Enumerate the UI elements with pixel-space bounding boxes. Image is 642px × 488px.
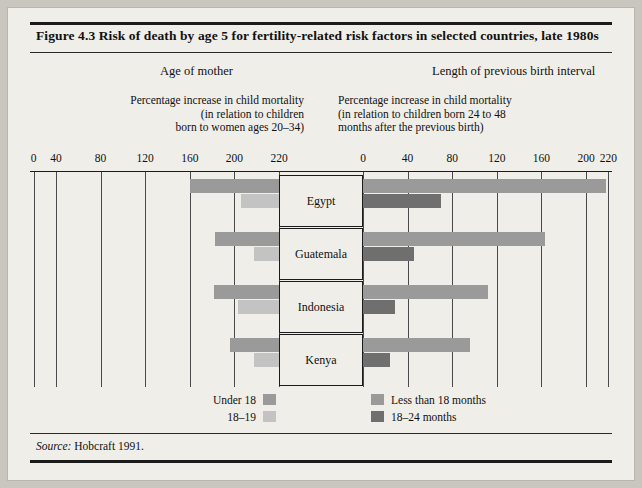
left-tick-220: 0 bbox=[31, 152, 37, 164]
left-panel-heading: Age of mother bbox=[160, 64, 233, 79]
right-caption-line-3: months after the previous birth) bbox=[338, 121, 588, 135]
bar-left-indonesia-1 bbox=[238, 300, 279, 314]
top-rule bbox=[30, 22, 612, 25]
figure-title: Figure 4.3 Risk of death by age 5 for fe… bbox=[36, 28, 599, 44]
left-panel-caption: Percentage increase in child mortality (… bbox=[64, 94, 304, 135]
country-label-egypt: Egypt bbox=[279, 175, 363, 227]
chart-legend: Under 1818–19Less than 18 months18–24 mo… bbox=[8, 394, 634, 428]
right-tick-160: 160 bbox=[533, 152, 550, 164]
legend-right-0: Less than 18 months bbox=[371, 394, 486, 406]
right-tick-220: 220 bbox=[600, 152, 617, 164]
left-caption-line-2: (in relation to children bbox=[64, 108, 304, 122]
source-rule bbox=[30, 433, 612, 434]
bottom-rule bbox=[30, 460, 612, 463]
bar-right-indonesia-0 bbox=[363, 285, 488, 299]
page-margin-top bbox=[0, 0, 642, 8]
chart-row-kenya: Kenya bbox=[8, 334, 634, 387]
source-text: Hobcraft 1991. bbox=[74, 440, 144, 452]
country-label-guatemala: Guatemala bbox=[279, 228, 363, 280]
chart-row-indonesia: Indonesia bbox=[8, 281, 634, 334]
bar-left-guatemala-0 bbox=[215, 232, 279, 246]
left-tick-0: 220 bbox=[270, 152, 287, 164]
bar-left-kenya-1 bbox=[254, 353, 279, 367]
bar-right-guatemala-0 bbox=[363, 232, 545, 246]
source-note: Source: Hobcraft 1991. bbox=[36, 440, 144, 452]
legend-right-1-swatch bbox=[371, 411, 384, 422]
bar-right-indonesia-1 bbox=[363, 300, 395, 314]
bar-right-kenya-1 bbox=[363, 353, 390, 367]
chart-row-egypt: Egypt bbox=[8, 175, 634, 228]
country-label-kenya: Kenya bbox=[279, 334, 363, 386]
left-tick-80: 160 bbox=[181, 152, 198, 164]
right-tick-200: 200 bbox=[577, 152, 594, 164]
title-rule bbox=[30, 52, 612, 53]
bar-left-indonesia-0 bbox=[214, 285, 279, 299]
left-tick-120: 120 bbox=[137, 152, 154, 164]
legend-left-0-label: Under 18 bbox=[176, 394, 256, 406]
legend-left-1: 18–19 bbox=[176, 411, 276, 423]
bar-right-egypt-1 bbox=[363, 194, 441, 208]
right-panel-caption: Percentage increase in child mortality (… bbox=[338, 94, 588, 135]
chart-plot-area: EgyptGuatemalaIndonesiaKenya bbox=[8, 171, 634, 383]
legend-right-0-label: Less than 18 months bbox=[391, 394, 486, 406]
bar-left-egypt-1 bbox=[241, 194, 279, 208]
legend-left-0: Under 18 bbox=[176, 394, 276, 406]
source-label: Source: bbox=[36, 440, 71, 452]
bar-left-guatemala-1 bbox=[254, 247, 279, 261]
right-caption-line-1: Percentage increase in child mortality bbox=[338, 94, 588, 108]
bar-left-kenya-0 bbox=[230, 338, 279, 352]
right-tick-80: 80 bbox=[446, 152, 458, 164]
right-panel-heading: Length of previous birth interval bbox=[432, 64, 595, 79]
legend-left-1-label: 18–19 bbox=[176, 411, 256, 423]
legend-right-0-swatch bbox=[371, 394, 384, 405]
left-tick-160: 80 bbox=[95, 152, 107, 164]
legend-right-1: 18–24 months bbox=[371, 411, 457, 423]
right-tick-0: 0 bbox=[360, 152, 366, 164]
right-caption-line-2: (in relation to children born 24 to 48 bbox=[338, 108, 588, 122]
bar-right-egypt-0 bbox=[363, 179, 606, 193]
right-tick-120: 120 bbox=[488, 152, 505, 164]
left-tick-200: 40 bbox=[50, 152, 62, 164]
bar-left-egypt-0 bbox=[190, 179, 279, 193]
left-caption-line-3: born to women ages 20–34) bbox=[64, 121, 304, 135]
left-caption-line-1: Percentage increase in child mortality bbox=[64, 94, 304, 108]
legend-left-1-swatch bbox=[263, 411, 276, 422]
country-label-indonesia: Indonesia bbox=[279, 281, 363, 333]
figure-page: Figure 4.3 Risk of death by age 5 for fe… bbox=[8, 8, 634, 480]
legend-right-1-label: 18–24 months bbox=[391, 411, 457, 423]
bar-right-guatemala-1 bbox=[363, 247, 414, 261]
bar-right-kenya-0 bbox=[363, 338, 470, 352]
right-tick-40: 40 bbox=[402, 152, 414, 164]
chart-row-guatemala: Guatemala bbox=[8, 228, 634, 281]
left-tick-40: 200 bbox=[226, 152, 243, 164]
legend-left-0-swatch bbox=[263, 394, 276, 405]
